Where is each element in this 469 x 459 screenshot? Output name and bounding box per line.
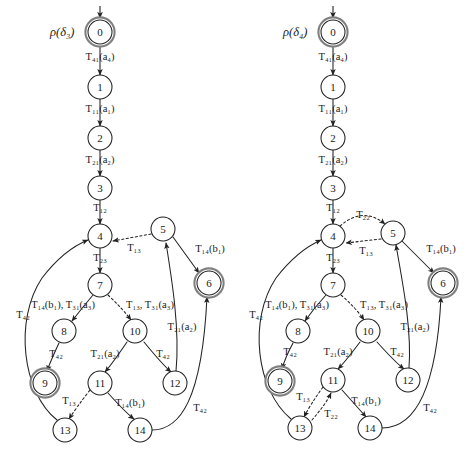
edge-label-right-2-3: T₂₁(a₂) [318, 154, 348, 166]
edge-label-right-10-11: T₂₁(a₂) [323, 346, 353, 358]
diagram-title-right: ρ(δ₄) [282, 25, 307, 39]
edge-label-right-11-13: T₁₃ [296, 391, 310, 402]
edge-label-left-1-2: T₁₁(a₁) [85, 103, 115, 115]
edge-label-right-0-1: T₄₁(a₄) [318, 51, 348, 63]
edge-label-right-4-5: T₂₂ [356, 209, 370, 220]
node-label-right-10: 10 [363, 325, 375, 337]
edge-label-right-11-14: T₁₄(b₁) [351, 395, 381, 407]
node-label-right-13: 13 [295, 422, 307, 434]
edge-label-right-13-4: T₄₂ [249, 309, 263, 320]
edge-label-left-5-6: T₁₄(b₁) [195, 243, 225, 255]
edge-label-left-7-10: T₁₃, T₃₁(a₃) [126, 299, 174, 311]
node-label-left-5: 5 [160, 223, 166, 235]
edge-label-left-11-13: T₁₃ [62, 395, 76, 406]
node-label-left-9: 9 [42, 377, 48, 389]
edge-label-right-3-4: T₁₂ [326, 202, 340, 213]
edge-label-left-14-6: T₄₂ [193, 402, 207, 413]
node-label-right-1: 1 [330, 81, 336, 93]
edge-label-left-12-5: T₂₁(a₂) [167, 321, 197, 333]
node-label-right-2: 2 [330, 132, 336, 144]
node-label-right-7: 7 [330, 279, 336, 291]
edge-label-right-7-10: T₁₃, T₃₁(a₃) [360, 299, 408, 311]
edge-label-left-11-14: T₁₄(b₁) [115, 397, 145, 409]
edge-label-left-8-9: T₄₂ [49, 348, 63, 359]
edge-label-right-12-5: T₂₁(a₂) [400, 321, 430, 333]
node-label-right-14: 14 [365, 422, 377, 434]
node-label-right-3: 3 [330, 182, 336, 194]
node-label-left-12: 12 [170, 377, 181, 389]
node-label-left-10: 10 [130, 325, 142, 337]
node-label-right-6: 6 [440, 277, 446, 289]
edge-label-right-10-12: T₄₂ [390, 346, 404, 357]
edge-label-left-0-1: T₄₁(a₄) [85, 51, 115, 63]
node-layer: 0123456789101112131401234567891011121314 [30, 17, 457, 442]
node-label-right-4: 4 [330, 230, 336, 242]
edge-label-right-7-8: T₁₄(b₁), T₃₁(a₃) [265, 299, 329, 311]
diagram-title-left: ρ(δ₃) [49, 25, 74, 39]
node-label-right-9: 9 [277, 375, 283, 387]
node-label-left-6: 6 [206, 277, 212, 289]
edge-label-left-2-3: T₂₁(a₂) [85, 154, 115, 166]
node-label-left-13: 13 [60, 424, 72, 436]
edge-label-left-3-4: T₁₂ [93, 202, 107, 213]
edge-label-right-5-4: T₁₃ [359, 245, 373, 256]
node-label-left-3: 3 [97, 182, 103, 194]
node-label-left-11: 11 [95, 377, 106, 389]
edge-layer [25, 6, 441, 430]
edge-left-e-5-4 [113, 234, 151, 241]
node-label-left-4: 4 [97, 230, 103, 242]
node-label-right-12: 12 [403, 374, 414, 386]
edge-label-right-14-6: T₄₂ [423, 402, 437, 413]
node-label-left-7: 7 [97, 279, 103, 291]
edge-label-left-13-4: T₄₂ [16, 309, 30, 320]
node-label-left-1: 1 [97, 81, 103, 93]
node-label-right-0: 0 [330, 26, 336, 38]
node-label-right-11: 11 [328, 374, 339, 386]
diagram-svg: 0123456789101112131401234567891011121314… [0, 0, 469, 459]
edge-label-left-7-8: T₁₄(b₁), T₃₁(a₃) [31, 299, 95, 311]
node-label-left-8: 8 [61, 325, 67, 337]
edge-label-left-5-4: T₁₃ [127, 242, 141, 253]
node-label-left-2: 2 [97, 132, 103, 144]
edge-label-right-5-6: T₁₄(b₁) [426, 243, 456, 255]
edge-label-left-4-7: T₂₃ [93, 252, 107, 263]
node-label-left-14: 14 [135, 424, 147, 436]
node-label-left-0: 0 [97, 26, 103, 38]
edge-label-left-10-11: T₂₁(a₂) [90, 348, 120, 360]
edge-label-left-10-12: T₄₂ [156, 348, 170, 359]
node-label-right-5: 5 [390, 227, 396, 239]
edge-label-right-4-7: T₂₃ [326, 252, 340, 263]
node-label-right-8: 8 [295, 325, 301, 337]
edge-label-right-8-9: T₄₂ [283, 346, 297, 357]
edge-label-right-1-2: T₁₁(a₁) [318, 103, 348, 115]
edge-label-right-13-11: T₂₂ [324, 408, 338, 419]
edge-right-e-5-4 [346, 239, 381, 243]
figure-canvas: 0123456789101112131401234567891011121314… [0, 0, 469, 459]
